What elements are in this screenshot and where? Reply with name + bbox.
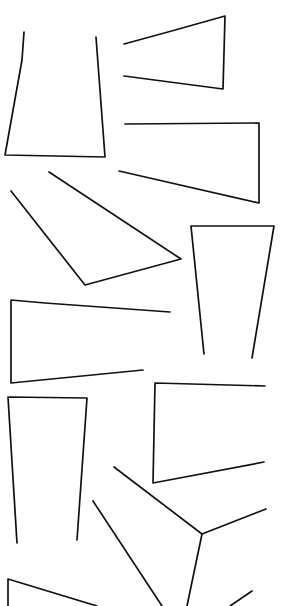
open-bracket-right-1	[119, 123, 259, 203]
shapes-layer	[5, 16, 274, 606]
sketch-canvas	[0, 0, 281, 606]
open-angle-top-right	[124, 16, 225, 89]
open-bracket-left-middle	[11, 300, 170, 383]
open-angle-bottom-middle	[114, 467, 266, 534]
open-quad-diagonal	[11, 172, 181, 285]
open-trapezoid-right-tall	[191, 226, 274, 358]
open-trapezoid-top-left	[5, 32, 105, 157]
stroke-fragment-bottom-right	[230, 591, 252, 606]
open-angle-bottom-line-1	[93, 501, 162, 606]
open-trapezoid-left-tall	[8, 397, 87, 543]
open-bracket-right-2	[153, 383, 265, 483]
open-angle-bottom-line-2	[187, 534, 202, 606]
open-angle-bottom-left	[8, 579, 97, 606]
